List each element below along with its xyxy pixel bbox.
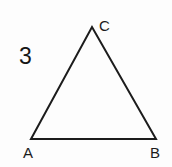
triangle-drawing [0, 0, 172, 167]
vertex-label-b: B [150, 145, 160, 160]
vertex-label-c: C [99, 18, 110, 33]
vertex-label-a: A [23, 145, 33, 160]
item-number-label: 3 [19, 45, 32, 68]
triangle-outline [31, 27, 156, 139]
triangle-figure: C A B 3 [0, 0, 172, 167]
